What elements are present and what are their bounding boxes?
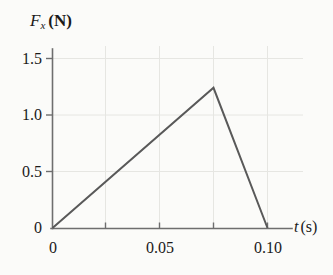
x-axis-symbol: t bbox=[294, 218, 298, 235]
plot-canvas bbox=[0, 0, 333, 275]
x-tick-label-0: 0 bbox=[33, 240, 73, 256]
y-tick-label-0: 0 bbox=[4, 220, 42, 236]
plot-background bbox=[0, 0, 333, 275]
x-axis-title: t(s) bbox=[294, 219, 317, 235]
y-axis-unit: (N) bbox=[48, 11, 72, 30]
force-vs-time-figure: Fx(N) t(s) 1.5 1.0 0.5 0 0 0.05 0.10 bbox=[0, 0, 333, 275]
y-tick-label-0.5: 0.5 bbox=[4, 164, 42, 180]
y-axis-title: Fx(N) bbox=[30, 12, 72, 31]
y-axis-subscript: x bbox=[40, 19, 45, 31]
y-tick-label-1.0: 1.0 bbox=[4, 107, 42, 123]
y-axis-symbol: F bbox=[30, 11, 40, 30]
x-tick-label-0.10: 0.10 bbox=[238, 240, 298, 256]
y-tick-label-1.5: 1.5 bbox=[4, 51, 42, 67]
x-tick-label-0.05: 0.05 bbox=[130, 240, 190, 256]
x-axis-unit: (s) bbox=[300, 218, 317, 235]
